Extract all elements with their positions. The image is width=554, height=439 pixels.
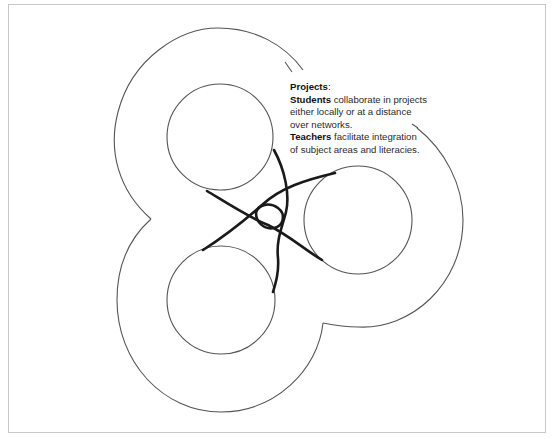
outer-arc-bottom xyxy=(117,219,323,412)
caption-line-2: either locally or at a distance xyxy=(290,106,427,119)
knot-strand-b xyxy=(273,150,287,292)
caption-text-2: either locally or at a distance xyxy=(290,106,412,117)
caption-text-5: of subject areas and literacies. xyxy=(290,144,420,155)
inner-circle-top xyxy=(167,84,273,190)
inner-circle-bottom xyxy=(167,246,275,354)
caption-line-1: Students collaborate in projects xyxy=(290,94,427,107)
caption-bold-students: Students xyxy=(290,94,331,105)
diagram-caption: Projects: Students collaborate in projec… xyxy=(290,81,427,157)
caption-title: Projects xyxy=(290,81,328,92)
outer-arc-right xyxy=(323,128,463,327)
caption-bold-teachers: Teachers xyxy=(290,131,331,142)
knot-strand-c xyxy=(203,173,335,250)
caption-text-3: over networks. xyxy=(290,119,352,130)
caption-text-1: collaborate in projects xyxy=(331,94,427,105)
caption-line-4: Teachers facilitate integration xyxy=(290,131,427,144)
trefoil-diagram xyxy=(0,0,554,439)
caption-line-3: over networks. xyxy=(290,119,427,132)
caption-title-line: Projects: xyxy=(290,81,427,94)
caption-text-4: facilitate integration xyxy=(331,131,416,142)
central-knot xyxy=(203,150,335,292)
outer-arc-tick xyxy=(285,62,292,72)
caption-line-5: of subject areas and literacies. xyxy=(290,144,427,157)
caption-title-suffix: : xyxy=(328,81,331,92)
outer-arc-top xyxy=(114,28,303,219)
